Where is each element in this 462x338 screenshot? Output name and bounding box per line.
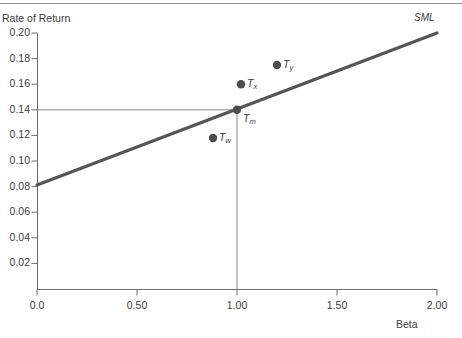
y-tick-label-0.20: 0.20	[0, 27, 30, 38]
y-tick-label-0.10: 0.10	[0, 155, 30, 166]
y-tick-label-0.08: 0.08	[0, 181, 30, 192]
y-tick-label-0.18: 0.18	[0, 53, 30, 64]
x-tick-label-0.0: 0.0	[17, 300, 57, 311]
y-tick-label-0.16: 0.16	[0, 78, 30, 89]
x-tick-label-2.00: 2.00	[417, 300, 457, 311]
y-tick-label-0.04: 0.04	[0, 232, 30, 243]
plot-area	[0, 0, 462, 338]
data-point-label-Tm: Tm	[243, 112, 256, 124]
data-point-Tx	[237, 80, 245, 88]
x-tick-label-1.50: 1.50	[317, 300, 357, 311]
data-point-Tw	[209, 134, 217, 142]
y-tick-label-0.12: 0.12	[0, 129, 30, 140]
data-points	[209, 61, 281, 142]
sml-chart-figure: Rate of Return Beta SML 0.020.040.060.08…	[0, 0, 462, 338]
y-tick-label-0.02: 0.02	[0, 257, 30, 268]
x-tick-label-1.00: 1.00	[217, 300, 257, 311]
data-point-Ty	[273, 61, 281, 69]
y-tick-label-0.14: 0.14	[0, 104, 30, 115]
x-tick-label-0.50: 0.50	[117, 300, 157, 311]
data-point-label-Ty: Ty	[283, 58, 293, 70]
data-point-label-Tw: Tw	[219, 131, 231, 143]
y-tick-label-0.06: 0.06	[0, 206, 30, 217]
guide-lines	[37, 110, 237, 289]
data-point-label-Tx: Tx	[247, 77, 257, 89]
data-point-Tm	[233, 106, 241, 114]
